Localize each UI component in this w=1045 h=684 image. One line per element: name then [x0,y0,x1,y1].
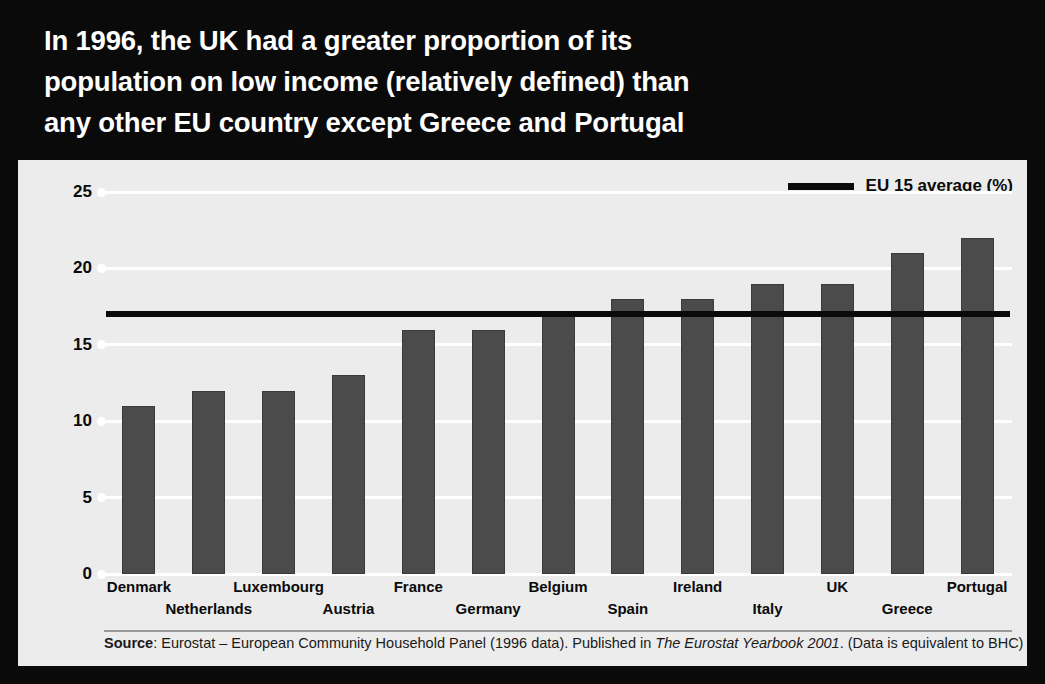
source-text-1: : Eurostat – European Community Househol… [153,635,655,651]
axis-tick-dot-10 [97,417,106,426]
bar-belgium [542,314,575,574]
source-text-2: . (Data is equivalent to BHC) [840,635,1024,651]
bar-austria [332,375,365,574]
axis-tick-dot-5 [97,493,106,502]
x-label-denmark: Denmark [107,578,171,595]
x-label-france: France [394,578,443,595]
y-tick-label-5: 5 [83,488,92,508]
y-tick-label-15: 15 [73,335,92,355]
bar-italy [751,284,784,574]
y-tick-label-10: 10 [73,411,92,431]
bar-uk [821,284,854,574]
gridline-25 [104,191,1012,194]
x-label-germany: Germany [456,600,521,617]
x-label-austria: Austria [323,600,375,617]
bar-ireland [681,299,714,574]
source-note: Source: Eurostat – European Community Ho… [104,635,1027,651]
bar-netherlands [192,391,225,574]
bar-greece [891,253,924,574]
x-label-greece: Greece [882,600,933,617]
bar-spain [611,299,644,574]
title-banner: In 1996, the UK had a greater proportion… [18,14,1027,154]
x-label-netherlands: Netherlands [165,600,252,617]
eu-average-line [106,311,1010,317]
x-axis-labels: DenmarkNetherlandsLuxembourgAustriaFranc… [104,578,1012,626]
x-label-spain: Spain [607,600,648,617]
axis-tick-dot-20 [97,264,106,273]
axis-tick-dot-25 [97,188,106,197]
bar-france [402,330,435,574]
y-tick-label-25: 25 [73,182,92,202]
x-label-italy: Italy [753,600,783,617]
axis-tick-dot-15 [97,340,106,349]
source-publication: The Eurostat Yearbook 2001 [655,635,839,651]
title-line-3: any other EU country except Greece and P… [44,102,1001,143]
bar-luxembourg [262,391,295,574]
gridline-20 [104,267,1012,270]
x-label-ireland: Ireland [673,578,722,595]
chart-panel: Proportion of the population with an inc… [18,160,1027,666]
x-label-luxembourg: Luxembourg [233,578,324,595]
plot-area: 0510152025 [104,192,1012,574]
title-line-1: In 1996, the UK had a greater proportion… [44,20,1001,61]
figure-root: In 1996, the UK had a greater proportion… [0,0,1045,684]
y-tick-label-20: 20 [73,258,92,278]
source-label: Source [104,635,153,651]
bar-germany [472,330,505,574]
y-tick-label-0: 0 [83,564,92,584]
legend-line-swatch [788,183,854,190]
bar-denmark [122,406,155,574]
source-divider [104,630,1012,632]
x-label-uk: UK [827,578,849,595]
x-label-belgium: Belgium [528,578,587,595]
title-line-2: population on low income (relatively def… [44,61,1001,102]
x-label-portugal: Portugal [947,578,1008,595]
bar-portugal [961,238,994,574]
